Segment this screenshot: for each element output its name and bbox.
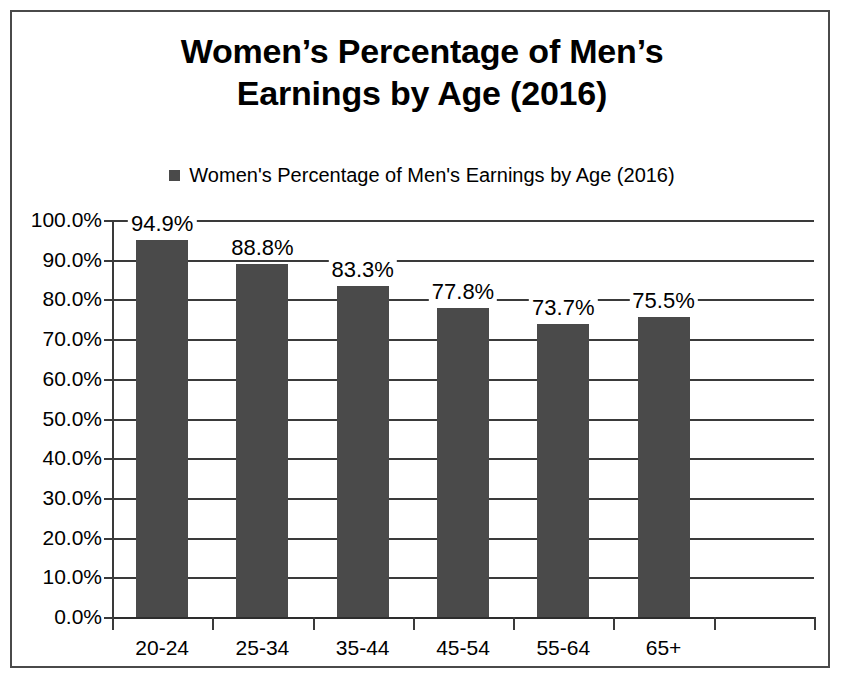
chart-frame: Women’s Percentage of Men’s Earnings by … — [10, 10, 830, 668]
x-axis-category-label: 65+ — [646, 636, 682, 660]
bar — [537, 324, 589, 617]
bar — [437, 308, 489, 617]
bar-value-label: 83.3% — [329, 258, 397, 281]
y-axis-label: 80.0% — [10, 287, 102, 311]
x-axis-tick — [714, 617, 716, 630]
bar — [136, 240, 188, 617]
y-axis-label: 10.0% — [10, 565, 102, 589]
x-axis-category-label: 45-54 — [436, 636, 490, 660]
x-axis-tick — [112, 617, 114, 630]
x-axis-tick — [613, 617, 615, 630]
y-axis-label: 50.0% — [10, 407, 102, 431]
y-axis-label: 70.0% — [10, 327, 102, 351]
y-axis-label: 100.0% — [10, 208, 102, 232]
x-axis-category-label: 20-24 — [135, 636, 189, 660]
x-axis-category-label: 25-34 — [236, 636, 290, 660]
y-axis-label: 60.0% — [10, 367, 102, 391]
bar — [638, 317, 690, 617]
bar-value-label: 73.7% — [529, 296, 597, 319]
bar — [337, 286, 389, 617]
x-axis-category-label: 55-64 — [536, 636, 590, 660]
y-axis-label: 90.0% — [10, 248, 102, 272]
y-axis-label: 20.0% — [10, 526, 102, 550]
y-axis-label: 0.0% — [10, 605, 102, 629]
plot-area: 0.0%10.0%20.0%30.0%40.0%50.0%60.0%70.0%8… — [12, 12, 830, 668]
x-axis-tick — [513, 617, 515, 630]
bar-value-label: 88.8% — [228, 236, 296, 259]
x-axis-category-label: 35-44 — [336, 636, 390, 660]
bar-value-label: 77.8% — [429, 280, 497, 303]
x-axis-tick — [212, 617, 214, 630]
y-axis-label: 40.0% — [10, 446, 102, 470]
x-axis-tick — [413, 617, 415, 630]
x-axis-tick — [313, 617, 315, 630]
bar-value-label: 94.9% — [128, 212, 196, 235]
y-axis-label: 30.0% — [10, 486, 102, 510]
bar — [236, 264, 288, 617]
bar-value-label: 75.5% — [629, 289, 697, 312]
gridline — [112, 260, 814, 262]
gridline — [112, 220, 814, 222]
x-axis-tick — [814, 617, 816, 630]
axis-baseline — [112, 617, 814, 619]
y-axis-line — [112, 220, 114, 617]
